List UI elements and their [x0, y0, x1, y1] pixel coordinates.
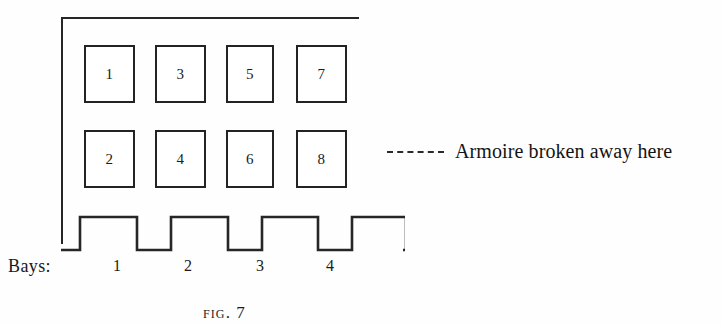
compartment-4: 4	[155, 130, 206, 188]
bay-tick-1: 1	[105, 257, 129, 275]
compartment-label: 1	[106, 67, 114, 82]
compartment-7: 7	[296, 45, 347, 103]
compartment-2: 2	[84, 130, 135, 188]
bays-axis-label: Bays:	[8, 256, 51, 277]
annotation-label: Armoire broken away here	[455, 140, 672, 163]
compartment-1: 1	[84, 45, 135, 103]
figure-7-armoire-diagram: 1 3 5 7 2 4 6 8 Bays: 1 2 3 4 Armoire br…	[0, 0, 722, 325]
bay-tick-2: 2	[176, 257, 200, 275]
figure-caption: FIG. 7	[203, 303, 246, 323]
compartment-label: 6	[246, 152, 254, 167]
compartment-3: 3	[155, 45, 206, 103]
figure-caption-prefix: FIG.	[203, 303, 231, 322]
compartment-label: 8	[318, 152, 326, 167]
compartment-label: 2	[106, 152, 114, 167]
compartment-5: 5	[226, 45, 274, 103]
compartment-label: 5	[246, 67, 254, 82]
compartment-6: 6	[226, 130, 274, 188]
bay-tick-4: 4	[318, 257, 342, 275]
figure-caption-number: 7	[236, 303, 246, 322]
carcase-top-rail	[61, 17, 359, 19]
annotation-leader-dashed-line	[387, 151, 444, 153]
compartment-label: 3	[177, 67, 185, 82]
bay-tick-3: 3	[248, 257, 272, 275]
compartment-8: 8	[296, 130, 347, 188]
crenellated-base	[55, 204, 405, 256]
compartment-label: 4	[177, 152, 185, 167]
bays-axis: Bays: 1 2 3 4	[8, 256, 428, 282]
compartment-label: 7	[318, 67, 326, 82]
